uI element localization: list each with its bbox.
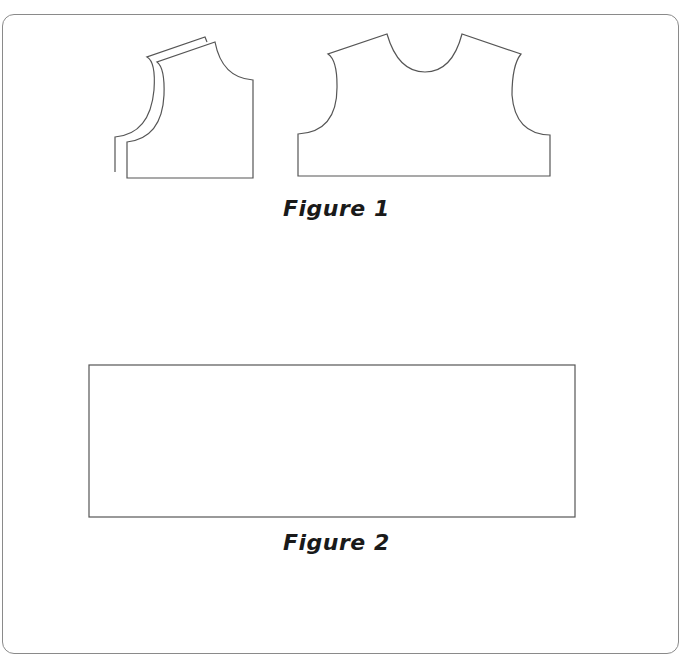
figure-1-caption: Figure 1 [283, 196, 390, 221]
rectangle-piece [89, 365, 575, 517]
bodice-piece-large [298, 34, 550, 176]
figure-2-caption: Figure 2 [283, 530, 390, 555]
bodice-piece-small [127, 42, 253, 178]
